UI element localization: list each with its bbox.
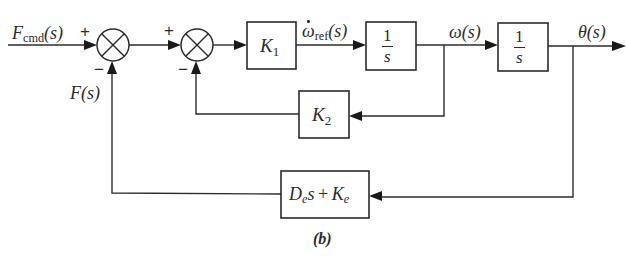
omega-ref-dot-label: ωref(s) [302,22,347,43]
integrator2-label: 1 s [514,28,525,66]
arrow-into-k2 [349,111,362,121]
k2-label: K2 [312,105,331,128]
arrow-into-sum2-bottom [191,61,201,74]
arrow-into-integrator1 [353,40,366,50]
k2-to-sum2-line [196,67,299,114]
arrow-into-sum2 [168,40,181,50]
feedback-force-label: F(s) [70,84,100,102]
output-arrow [612,41,626,51]
summing-junction-2 [181,29,213,61]
arrow-into-integrator2 [485,40,498,50]
sum2-plus-sign: + [164,22,174,39]
sum1-minus-sign: − [94,61,104,78]
summing-junction-1 [97,29,129,61]
arrow-into-impedance [369,191,382,201]
arrow-into-sum1-bottom [107,61,117,74]
sum2-minus-sign: − [178,61,188,78]
arrow-into-sum1 [84,40,97,50]
input-label: Fcmd(s) [12,24,63,45]
theta-label: θ(s) [578,23,606,41]
omega-label: ω(s) [449,23,481,41]
sum1-plus-sign: + [80,23,90,40]
impedance-label: Des + Ke [289,185,349,206]
arrow-into-k1 [234,40,247,50]
integrator1-label: 1 s [382,27,393,65]
figure-caption: (b) [313,231,332,247]
k1-label: K1 [260,36,279,59]
